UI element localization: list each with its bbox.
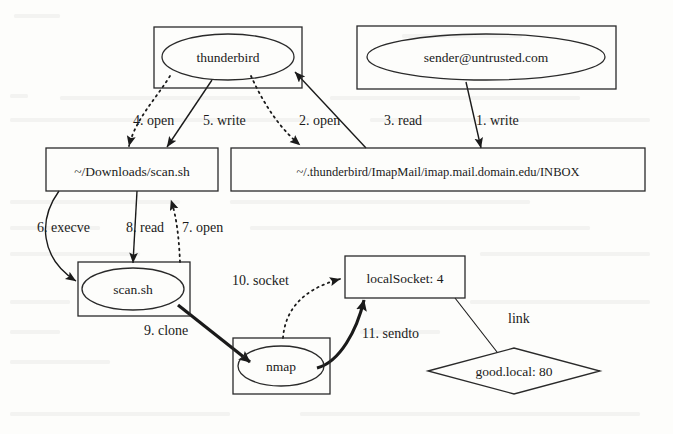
edge-label-8: 8. read (126, 220, 164, 235)
node-label-inbox: ~/.thunderbird/ImapMail/imap.mail.domain… (296, 165, 579, 179)
edge-label-9: 9. clone (144, 323, 188, 338)
node-label-downloads: ~/Downloads/scan.sh (74, 164, 190, 179)
provenance-graph: 1. write 2. open 3. read 4. open 5. writ… (0, 0, 673, 434)
node-label-localsocket: localSocket: 4 (367, 271, 444, 286)
edge-5-write: 5. write (167, 80, 246, 147)
node-scansh-process[interactable]: scan.sh (78, 262, 190, 316)
node-label-thunderbird: thunderbird (197, 50, 260, 65)
edge-4-open: 4. open (129, 76, 174, 146)
edge-12-link: link (455, 298, 530, 352)
edge-label-1: 1. write (476, 113, 519, 128)
edge-11-sendto: 11. sendto (317, 300, 419, 368)
node-downloads-file[interactable]: ~/Downloads/scan.sh (46, 148, 218, 191)
node-inbox-file[interactable]: ~/.thunderbird/ImapMail/imap.mail.domain… (231, 148, 645, 191)
edge-label-11: 11. sendto (362, 326, 419, 341)
node-nmap-process[interactable]: nmap (233, 338, 330, 394)
edge-label-10: 10. socket (232, 273, 289, 288)
edge-label-link: link (508, 311, 530, 326)
node-label-scansh: scan.sh (113, 282, 153, 297)
edge-label-2: 2. open (299, 113, 340, 128)
edge-label-6: 6. execve (37, 220, 90, 235)
node-label-sender: sender@untrusted.com (424, 50, 549, 65)
node-thunderbird[interactable]: thunderbird (154, 27, 302, 88)
edge-1-write: 1. write (466, 82, 519, 148)
node-localsocket[interactable]: localSocket: 4 (345, 256, 465, 298)
node-label-nmap: nmap (266, 359, 296, 374)
edge-2-open: 2. open (251, 76, 340, 145)
edge-label-4: 4. open (133, 113, 174, 128)
diagram-page: 1. write 2. open 3. read 4. open 5. writ… (0, 0, 673, 434)
edge-label-7: 7. open (182, 220, 223, 235)
edge-9-clone: 9. clone (144, 305, 250, 362)
edge-6-execve: 6. execve (37, 191, 90, 281)
edge-7-open: 7. open (171, 200, 223, 262)
node-sender[interactable]: sender@untrusted.com (357, 26, 616, 89)
edge-10-socket: 10. socket (232, 273, 340, 338)
edge-label-3: 3. read (384, 113, 422, 128)
node-goodlocal-host[interactable]: good.local: 80 (428, 348, 600, 394)
edge-8-read: 8. read (126, 191, 164, 263)
edge-3-read: 3. read (295, 72, 422, 148)
edge-label-5: 5. write (203, 113, 246, 128)
node-label-goodlocal: good.local: 80 (475, 364, 552, 379)
